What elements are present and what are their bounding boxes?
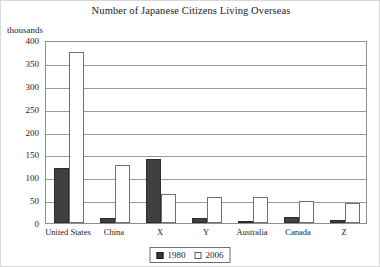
y-axis-tick-label: 100: [26, 173, 40, 183]
bar: [253, 197, 268, 223]
bar-group: [284, 42, 314, 223]
bar: [238, 221, 253, 223]
bars-layer: [46, 42, 366, 223]
bar: [69, 52, 84, 223]
x-axis-tick-labels: United StatesChinaXYAustraliaCanadaZ: [45, 227, 367, 241]
y-axis-tick-labels: 050100150200250300350400: [1, 41, 45, 224]
bar: [115, 165, 130, 223]
plot-area: [45, 41, 367, 224]
bar-group: [192, 42, 222, 223]
chart-figure: Number of Japanese Citizens Living Overs…: [0, 0, 380, 267]
legend-swatch-icon: [157, 252, 164, 259]
bar: [284, 217, 299, 223]
y-axis-tick-label: 150: [26, 150, 40, 160]
legend-entry: 2006: [195, 250, 224, 260]
x-axis-tick-label: United States: [45, 227, 91, 237]
bar: [161, 194, 176, 223]
bar: [192, 218, 207, 223]
bar-group: [238, 42, 268, 223]
y-axis-tick-label: 400: [26, 36, 40, 46]
x-axis-tick-label: Australia: [236, 227, 267, 237]
legend-swatch-icon: [195, 252, 202, 259]
y-axis-tick-label: 200: [26, 128, 40, 138]
y-axis-tick-label: 0: [35, 219, 40, 229]
bar-group: [146, 42, 176, 223]
chart-legend: 19802006: [150, 247, 231, 263]
legend-label: 2006: [206, 250, 224, 260]
y-axis-tick-label: 250: [26, 105, 40, 115]
bar: [345, 203, 360, 223]
bar-group: [330, 42, 360, 223]
bar: [54, 168, 69, 223]
x-axis-tick-label: X: [157, 227, 163, 237]
chart-title: Number of Japanese Citizens Living Overs…: [1, 5, 380, 16]
legend-entry: 1980: [157, 250, 186, 260]
bar: [299, 201, 314, 223]
bar-group: [54, 42, 84, 223]
bar: [100, 218, 115, 223]
x-axis-tick-label: Z: [341, 227, 346, 237]
y-axis-unit-label: thousands: [7, 25, 43, 35]
y-axis-tick-label: 300: [26, 82, 40, 92]
bar: [146, 159, 161, 224]
y-axis-tick-label: 350: [26, 59, 40, 69]
x-axis-tick-label: Y: [203, 227, 209, 237]
x-axis-tick-label: Canada: [285, 227, 311, 237]
bar: [207, 197, 222, 223]
legend-label: 1980: [168, 250, 186, 260]
bar: [330, 220, 345, 223]
x-axis-tick-label: China: [104, 227, 124, 237]
bar-group: [100, 42, 130, 223]
y-axis-tick-label: 50: [30, 196, 39, 206]
